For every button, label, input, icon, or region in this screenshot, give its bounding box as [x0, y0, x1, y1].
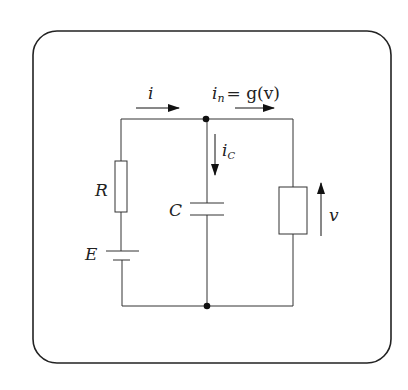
label-r: R	[94, 180, 108, 200]
label-e: E	[84, 244, 98, 264]
label-i: i	[148, 83, 153, 103]
voltage-source-e	[106, 251, 139, 260]
resistor-r	[115, 161, 127, 212]
label-v: v	[329, 205, 339, 225]
top-junction-node	[203, 116, 210, 123]
label-ic: iC	[222, 140, 235, 161]
capacitor-c	[190, 203, 224, 215]
circuit-diagram: i in= g(v) iC R C E v	[0, 0, 408, 390]
label-c: C	[169, 200, 182, 220]
diagram-frame	[33, 31, 391, 363]
label-in: in= g(v)	[212, 83, 280, 105]
circuit-wires	[121, 119, 293, 306]
nonlinear-element	[279, 187, 307, 234]
bottom-junction-node	[204, 303, 211, 310]
